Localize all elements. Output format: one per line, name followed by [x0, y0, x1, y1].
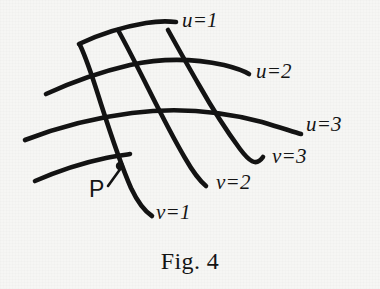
point-p-leader-line	[108, 168, 121, 186]
figure-caption: Fig. 4	[0, 248, 380, 275]
label-point-p: P	[89, 178, 104, 201]
label-u-1: u=1	[182, 10, 218, 31]
label-v-3: v=3	[272, 146, 307, 167]
curve-u1	[79, 21, 176, 44]
label-u-3: u=3	[306, 114, 342, 135]
figure-container: u=1 u=2 u=3 v=3 v=2 v=1 P Fig. 4	[0, 0, 380, 289]
curve-v2	[118, 30, 206, 186]
label-v-2: v=2	[216, 172, 251, 193]
curve-v3	[168, 30, 263, 162]
coordinate-net-diagram	[0, 0, 380, 289]
label-u-2: u=2	[256, 61, 292, 82]
label-v-1: v=1	[156, 202, 191, 223]
